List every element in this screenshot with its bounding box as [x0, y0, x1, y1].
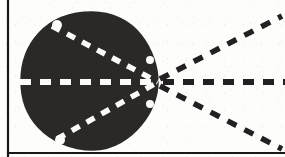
diagram-canvas [0, 0, 285, 157]
right-waist-notch [146, 56, 154, 64]
figure-container [0, 0, 285, 157]
right-lower-notch [146, 100, 154, 108]
